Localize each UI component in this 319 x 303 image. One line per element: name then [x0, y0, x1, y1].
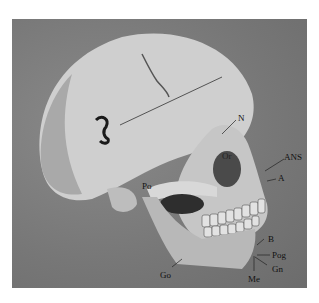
skull-illustration	[12, 19, 307, 288]
landmark-label-b: B	[268, 235, 274, 244]
landmark-label-me: Me	[248, 275, 260, 284]
landmark-label-pog: Pog	[272, 251, 286, 260]
landmark-label-go: Go	[160, 271, 171, 280]
landmark-label-gn: Gn	[272, 265, 283, 274]
landmark-label-ans: ANS	[284, 153, 302, 162]
landmark-label-a: A	[278, 174, 285, 183]
landmark-label-n: N	[238, 114, 245, 123]
landmark-label-po: Po	[142, 182, 152, 191]
landmark-label-or: Or	[222, 152, 232, 161]
skull-photo: N Or ANS A Po B Pog Gn Go Me	[12, 19, 307, 288]
